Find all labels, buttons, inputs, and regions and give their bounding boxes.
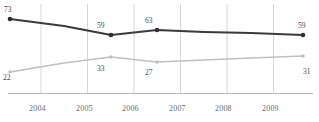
light-series-line — [10, 56, 303, 72]
light-marker-3 — [155, 60, 158, 63]
data-label-light-31: 31 — [303, 68, 311, 76]
x-tick-2004: 2004 — [29, 104, 46, 113]
x-tick-2007: 2007 — [169, 104, 186, 113]
dark-marker-3 — [155, 28, 160, 33]
x-tick-2009: 2009 — [262, 104, 279, 113]
x-tick-2006: 2006 — [122, 104, 139, 113]
data-label-dark-73: 73 — [4, 6, 12, 14]
dark-marker-2 — [109, 33, 114, 38]
data-label-light-27: 27 — [145, 69, 153, 77]
gridlines — [41, 4, 274, 93]
data-label-dark-59: 59 — [97, 22, 105, 30]
x-tick-2008: 2008 — [215, 104, 232, 113]
data-label-dark-63: 63 — [145, 17, 153, 25]
dark-marker-4 — [301, 33, 306, 38]
data-label-light-33: 33 — [97, 65, 105, 73]
line-chart: 73 59 63 59 22 33 27 31 2004 2005 2006 2… — [0, 0, 319, 122]
dark-series-line — [10, 19, 303, 35]
dark-marker-1 — [8, 17, 13, 22]
light-marker-2 — [109, 55, 112, 58]
x-tick-2005: 2005 — [76, 104, 93, 113]
data-label-dark-59-end: 59 — [298, 22, 306, 30]
data-label-light-22: 22 — [3, 74, 11, 82]
light-marker-4 — [301, 54, 304, 57]
